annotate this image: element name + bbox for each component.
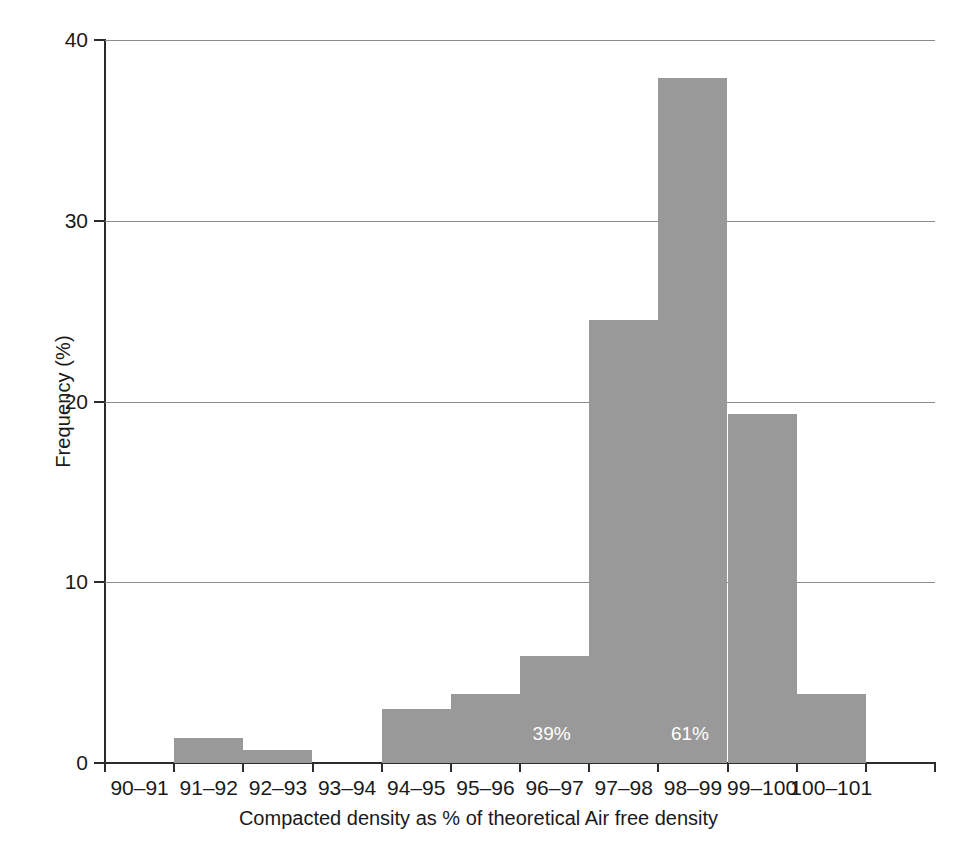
x-tick-mark <box>657 763 659 772</box>
x-tick-mark <box>865 763 867 772</box>
bar <box>797 694 866 763</box>
y-tick-mark <box>94 401 104 403</box>
x-axis-title: Compacted density as % of theoretical Ai… <box>0 806 957 830</box>
bar <box>589 320 658 763</box>
y-tick-label: 20 <box>18 391 88 412</box>
x-tick-mark <box>242 763 244 772</box>
gridline <box>105 40 935 41</box>
y-tick-mark <box>94 220 104 222</box>
x-tick-mark <box>796 763 798 772</box>
histogram-figure: Frequency (%) 010203040 39%61% 90–9191–9… <box>0 0 957 851</box>
y-tick-mark <box>94 762 104 764</box>
x-tick-mark <box>519 763 521 772</box>
x-tick-mark <box>727 763 729 772</box>
y-tick-mark <box>94 581 104 583</box>
x-tick-mark <box>104 763 106 772</box>
x-tick-mark <box>173 763 175 772</box>
y-tick-label: 30 <box>18 210 88 231</box>
gridline <box>105 221 935 222</box>
y-tick-label: 40 <box>18 29 88 50</box>
x-tick-mark <box>312 763 314 772</box>
gridline <box>105 402 935 403</box>
x-tick-mark <box>588 763 590 772</box>
bar-annotation: 61% <box>671 724 709 743</box>
bar <box>520 656 589 763</box>
bar <box>174 738 243 763</box>
y-tick-mark <box>94 39 104 41</box>
bar <box>658 78 727 763</box>
bar <box>451 694 520 763</box>
bar <box>382 709 451 763</box>
bar <box>243 750 312 763</box>
y-tick-label: 10 <box>18 571 88 592</box>
plot-area: 39%61% <box>105 40 935 763</box>
x-tick-mark <box>450 763 452 772</box>
x-tick-label: 100–101 <box>785 776 878 800</box>
gridline <box>105 582 935 583</box>
bar <box>728 414 797 763</box>
bar-annotation: 39% <box>533 724 571 743</box>
x-tick-mark <box>381 763 383 772</box>
y-tick-label: 0 <box>18 752 88 773</box>
x-tick-mark <box>934 763 936 772</box>
